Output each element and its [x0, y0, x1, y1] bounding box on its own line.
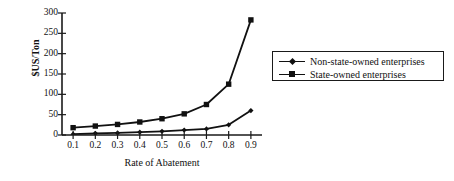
legend-label-non-state-owned: Non-state-owned enterprises: [310, 56, 425, 67]
y-tick-label: 300: [44, 8, 58, 18]
x-axis-tick-labels: 0.10.20.30.40.50.60.70.80.9: [62, 141, 262, 155]
plot-area: [62, 13, 262, 135]
data-point: [137, 119, 142, 124]
data-point: [137, 130, 142, 135]
y-tick-label: 250: [44, 28, 58, 38]
data-point: [93, 123, 98, 128]
legend-item-non-state-owned: Non-state-owned enterprises: [279, 55, 443, 67]
y-tick-label: 50: [49, 110, 59, 120]
chart-figure: $US/Ton 050100150200250300 0.10.20.30.40…: [0, 0, 454, 181]
data-point: [204, 102, 209, 107]
plot-canvas: [62, 13, 262, 135]
y-tick-label: 150: [44, 69, 58, 79]
data-point: [182, 128, 187, 133]
y-axis-tick-labels: 050100150200250300: [22, 13, 58, 135]
series-line-state-owned: [73, 20, 251, 128]
legend-marker-diamond-icon: [279, 56, 305, 67]
y-tick-label: 100: [44, 89, 58, 99]
data-point: [159, 129, 164, 134]
data-point: [115, 122, 120, 127]
legend-marker-square-icon: [279, 69, 305, 80]
data-point: [115, 130, 120, 135]
y-tick-label: 0: [53, 130, 58, 140]
data-point: [204, 126, 209, 131]
x-axis-title: Rate of Abatement: [62, 157, 262, 168]
data-point: [182, 111, 187, 116]
data-point: [226, 81, 231, 86]
data-point: [159, 116, 164, 121]
legend-item-state-owned: State-owned enterprises: [279, 68, 443, 80]
data-point: [93, 131, 98, 135]
data-point: [70, 125, 75, 130]
chart-legend: Non-state-owned enterprises State-owned …: [272, 51, 444, 81]
y-tick-label: 200: [44, 49, 58, 59]
data-point: [248, 17, 253, 22]
legend-label-state-owned: State-owned enterprises: [310, 69, 406, 80]
x-tick-label: 0.9: [238, 141, 264, 151]
